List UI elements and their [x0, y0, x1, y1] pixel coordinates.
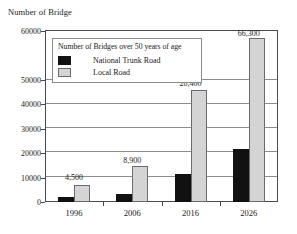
y-axis-title: Number of Bridge	[8, 7, 72, 17]
chart-legend: Number of Bridges over 50 years of age N…	[52, 38, 202, 83]
bar-local-road-2016[interactable]	[191, 90, 207, 202]
x-tick-mark	[162, 202, 163, 206]
y-tick-mark	[41, 202, 45, 203]
bar-national-trunk-road-2016[interactable]	[175, 174, 191, 202]
bar-local-road-2026[interactable]	[249, 38, 265, 202]
bar-group-2026: 66,300	[220, 30, 278, 202]
legend-label-national-trunk-road: National Trunk Road	[93, 56, 161, 65]
x-tick-mark	[220, 202, 221, 206]
legend-row-national-trunk-road: National Trunk Road	[58, 54, 196, 66]
x-tick-label-2016: 2016	[182, 208, 199, 218]
bar-label-1996: 4,500	[65, 173, 83, 182]
x-tick-mark	[103, 202, 104, 206]
bar-local-road-1996[interactable]	[74, 185, 90, 202]
legend-row-local-road: Local Road	[58, 66, 196, 78]
legend-title: Number of Bridges over 50 years of age	[58, 42, 196, 51]
bar-label-2026: 66,300	[238, 29, 260, 38]
x-tick-label-2006: 2006	[124, 208, 141, 218]
bar-national-trunk-road-2026[interactable]	[233, 149, 249, 202]
bar-national-trunk-road-2006[interactable]	[116, 194, 132, 202]
bar-local-road-2006[interactable]	[132, 166, 148, 202]
bar-label-2006: 8,900	[123, 156, 141, 165]
chart-page: { "axis_title": "Number of Bridge", "leg…	[0, 0, 297, 234]
bar-national-trunk-road-1996[interactable]	[58, 197, 74, 202]
x-tick-label-1996: 1996	[66, 208, 83, 218]
x-tick-label-2026: 2026	[240, 208, 257, 218]
legend-swatch-national-trunk-road	[58, 56, 71, 65]
legend-label-local-road: Local Road	[93, 68, 130, 77]
legend-swatch-local-road	[58, 68, 71, 77]
